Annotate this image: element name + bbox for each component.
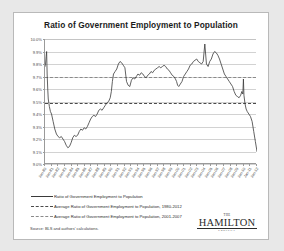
x-tick-mark (183, 164, 184, 166)
logo-name: HAMILTON (197, 217, 257, 229)
logo-project: PROJECT (197, 229, 257, 232)
y-axis-tick-label: 9.9% (33, 49, 42, 54)
x-tick-mark (110, 164, 111, 166)
legend-label: Average Ratio of Government Employment t… (54, 204, 182, 209)
legend-swatch-dotted (30, 213, 54, 219)
y-axis-tick-label: 9.1% (33, 149, 42, 154)
y-axis-tick-label: 9.4% (33, 112, 42, 117)
x-tick-mark (243, 164, 244, 166)
y-axis-tick-label: 10.0% (30, 37, 42, 42)
x-tick-mark (223, 164, 224, 166)
x-tick-mark (163, 164, 164, 166)
x-tick-mark (157, 164, 158, 166)
legend-swatch-solid (30, 193, 54, 199)
y-axis-tick-label: 9.2% (33, 137, 42, 142)
x-tick-mark (256, 164, 257, 166)
x-tick-mark (130, 164, 131, 166)
x-tick-mark (203, 164, 204, 166)
x-tick-mark (177, 164, 178, 166)
x-tick-mark (71, 164, 72, 166)
plot-area: 10.0%9.9%9.8%9.7%9.6%9.5%9.4%9.3%9.2%9.1… (44, 39, 256, 164)
x-tick-mark (77, 164, 78, 166)
x-tick-mark (236, 164, 237, 166)
y-axis-tick-label: 9.5% (33, 99, 42, 104)
x-tick-mark (230, 164, 231, 166)
x-tick-mark (137, 164, 138, 166)
x-tick-mark (51, 164, 52, 166)
y-axis-tick-label: 9.6% (33, 87, 42, 92)
series-line (45, 39, 256, 163)
legend-swatch-dashed (30, 203, 54, 209)
x-tick-mark (97, 164, 98, 166)
x-tick-mark (117, 164, 118, 166)
y-axis-tick-label: 9.0% (33, 162, 42, 167)
chart-card: Ratio of Government Employment to Popula… (13, 12, 269, 240)
hamilton-project-logo: THE HAMILTON PROJECT (197, 213, 257, 235)
x-tick-mark (216, 164, 217, 166)
legend-label: Average Ratio of Government Employment t… (54, 214, 182, 219)
legend-item: Ratio of Government Employment to Popula… (30, 191, 250, 201)
y-axis-tick-label: 9.7% (33, 74, 42, 79)
x-tick-mark (57, 164, 58, 166)
source-note: Source: BLS and authors' calculations. (30, 226, 99, 231)
x-tick-mark (124, 164, 125, 166)
x-tick-mark (196, 164, 197, 166)
legend-item: Average Ratio of Government Employment t… (30, 201, 250, 211)
y-axis-tick-label: 9.8% (33, 62, 42, 67)
x-tick-mark (210, 164, 211, 166)
legend-label: Ratio of Government Employment to Popula… (54, 194, 143, 199)
x-tick-mark (104, 164, 105, 166)
x-tick-mark (143, 164, 144, 166)
x-tick-mark (64, 164, 65, 166)
x-tick-mark (249, 164, 250, 166)
x-tick-mark (190, 164, 191, 166)
x-tick-mark (90, 164, 91, 166)
chart-title: Ratio of Government Employment to Popula… (14, 20, 268, 30)
x-tick-mark (170, 164, 171, 166)
y-axis-tick-label: 9.3% (33, 124, 42, 129)
x-tick-mark (84, 164, 85, 166)
x-tick-mark (44, 164, 45, 166)
x-tick-mark (150, 164, 151, 166)
